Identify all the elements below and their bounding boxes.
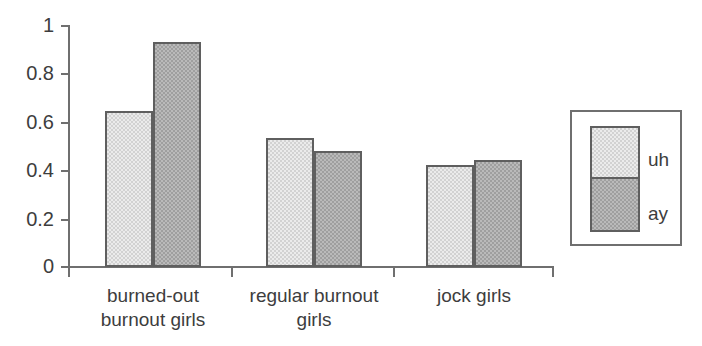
legend-label-ay: ay <box>648 204 668 223</box>
y-axis-line <box>68 25 70 268</box>
bar-ay-burned-out-burnout-girls <box>153 42 201 267</box>
y-tick-mark-06 <box>61 122 69 124</box>
y-tick-mark-02 <box>61 219 69 221</box>
y-tick-label-08: 0.8 <box>0 63 54 83</box>
y-tick-group-1: 1 <box>0 25 702 27</box>
x-tick-end <box>552 268 554 277</box>
x-category-label-burned-out-burnout-girls: burned-out burnout girls <box>78 284 228 332</box>
y-tick-label-04: 0.4 <box>0 160 54 180</box>
y-tick-mark-04 <box>61 170 69 172</box>
y-tick-label-0: 0 <box>0 256 54 276</box>
bar-ay-regular-burnout-girls <box>314 151 362 267</box>
legend-swatch-ay <box>592 179 638 230</box>
x-tick-separator-1 <box>231 268 233 277</box>
bar-ay-jock-girls <box>474 160 522 267</box>
bar-chart-figure: 1 0.8 0.6 0.4 0.2 0 burned-out burnout g… <box>0 0 702 346</box>
legend-swatch-uh <box>592 128 638 179</box>
y-tick-mark-08 <box>61 73 69 75</box>
x-category-label-jock-girls: jock girls <box>399 284 549 308</box>
x-tick-separator-2 <box>393 268 395 277</box>
legend-label-uh: uh <box>648 150 669 169</box>
legend-swatch-stack <box>590 126 640 232</box>
legend-box: uh ay <box>570 110 682 246</box>
y-tick-mark-1 <box>61 25 69 27</box>
y-tick-group-08: 0.8 <box>0 73 702 75</box>
y-tick-label-1: 1 <box>0 15 54 35</box>
x-category-label-regular-burnout-girls: regular burnout girls <box>239 284 389 332</box>
bar-uh-jock-girls <box>426 165 474 267</box>
bar-uh-burned-out-burnout-girls <box>105 111 153 267</box>
y-tick-label-02: 0.2 <box>0 209 54 229</box>
x-tick-start <box>68 268 70 277</box>
bar-uh-regular-burnout-girls <box>266 138 314 267</box>
y-tick-label-06: 0.6 <box>0 112 54 132</box>
